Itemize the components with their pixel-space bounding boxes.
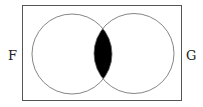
- set-f-label: F: [8, 48, 17, 63]
- venn-diagram: F G: [0, 0, 203, 107]
- intersection-region: [94, 14, 174, 94]
- set-g-label: G: [186, 48, 196, 63]
